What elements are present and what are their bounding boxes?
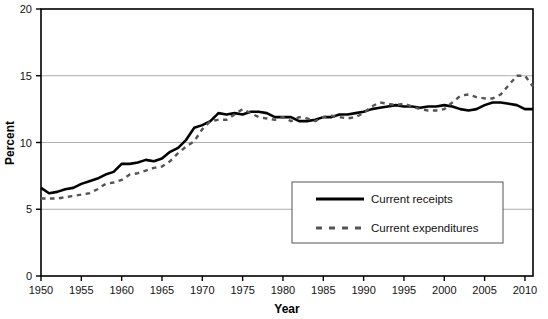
y-tick-label: 5 (26, 203, 32, 215)
x-tick-label: 1950 (29, 284, 53, 296)
chart-page: 05101520 1950195519601965197019751980198… (0, 0, 548, 319)
x-tick-label: 1960 (109, 284, 133, 296)
legend-label-receipts: Current receipts (371, 193, 453, 205)
x-axis-title: Year (274, 302, 300, 316)
legend-label-expenditures: Current expenditures (371, 222, 479, 234)
y-tick-label: 20 (20, 3, 32, 15)
chart-background (0, 0, 548, 319)
y-tick-label: 15 (20, 70, 32, 82)
x-tick-label: 1985 (311, 284, 335, 296)
x-tick-label: 1965 (150, 284, 174, 296)
x-tick-label: 1975 (230, 284, 254, 296)
x-tick-label: 1955 (69, 284, 93, 296)
y-tick-label: 10 (20, 137, 32, 149)
x-tick-label: 2000 (432, 284, 456, 296)
x-tick-label: 2005 (472, 284, 496, 296)
x-tick-label: 2010 (513, 284, 537, 296)
x-tick-label: 1970 (190, 284, 214, 296)
x-tick-label: 1980 (271, 284, 295, 296)
y-tick-label: 0 (26, 270, 32, 282)
y-axis-title: Percent (3, 121, 17, 165)
chart-legend: Current receipts Current expenditures (292, 182, 503, 243)
x-tick-label: 1990 (351, 284, 375, 296)
x-tick-label: 1995 (392, 284, 416, 296)
line-chart: 05101520 1950195519601965197019751980198… (0, 0, 548, 319)
